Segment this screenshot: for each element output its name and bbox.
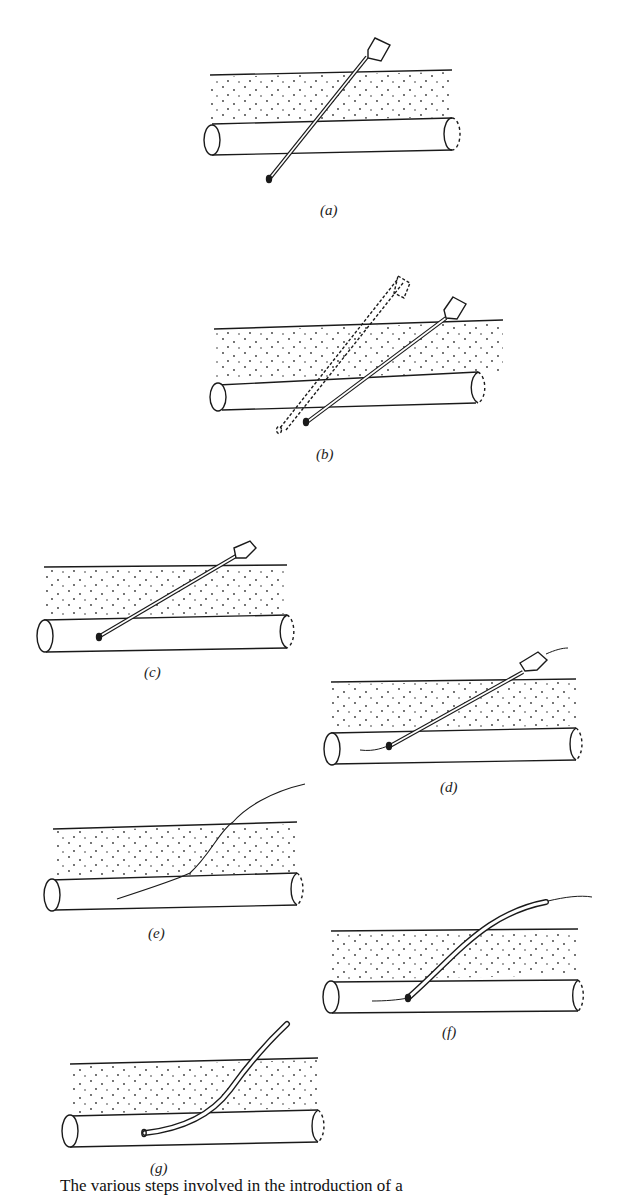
panel-a-illustration: [204, 38, 460, 183]
panel-label-e: (e): [148, 925, 165, 942]
panel-label-c: (c): [144, 664, 161, 681]
panel-c-illustration: [37, 541, 294, 652]
panel-label-a: (a): [320, 202, 338, 219]
figure-caption: The various steps involved in the introd…: [60, 1176, 403, 1196]
panel-label-b: (b): [316, 446, 334, 463]
panel-f-illustration: [323, 896, 592, 1013]
panel-b-illustration: [210, 276, 503, 434]
panel-d-illustration: [324, 648, 582, 765]
panel-label-g: (g): [150, 1160, 168, 1177]
panel-label-f: (f): [442, 1024, 456, 1041]
panel-g-illustration: [62, 1024, 324, 1147]
panel-label-d: (d): [440, 779, 458, 796]
panel-e-illustration: [44, 784, 305, 911]
